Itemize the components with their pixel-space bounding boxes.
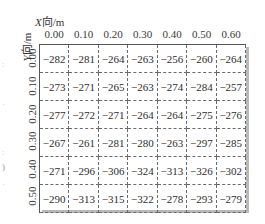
- table-cell: −296: [69, 157, 98, 185]
- table-cell: −302: [216, 157, 245, 185]
- y-tick: 0.20: [26, 100, 38, 128]
- x-tick: 0.00: [39, 28, 69, 40]
- table-cell: −261: [69, 129, 98, 157]
- x-tick: 0.50: [187, 28, 217, 40]
- table-cell: −322: [128, 185, 157, 213]
- table-row: −282 −281 −264 −263 −256 −260 −264: [40, 45, 246, 73]
- table-cell: −260: [187, 45, 216, 73]
- table-cell: −315: [98, 185, 127, 213]
- x-axis-ticks: 0.00 0.10 0.20 0.30 0.40 0.50 0.60: [39, 28, 246, 42]
- table-cell: −267: [40, 129, 69, 157]
- y-tick: 0.00: [26, 44, 38, 72]
- x-axis-title-unit: 向/m: [42, 16, 65, 28]
- table-row: −290 −313 −315 −322 −278 −293 −279: [40, 185, 246, 213]
- table-row: −271 −296 −306 −324 −313 −326 −302: [40, 157, 246, 185]
- table-cell: −275: [187, 101, 216, 129]
- table-cell: −293: [187, 185, 216, 213]
- table-cell: −284: [187, 73, 216, 101]
- table-cell: −256: [157, 45, 186, 73]
- table-cell: −271: [69, 73, 98, 101]
- y-tick: 0.30: [26, 127, 38, 155]
- table-cell: −277: [40, 101, 69, 129]
- table-cell: −265: [98, 73, 127, 101]
- table-row: −277 −272 −271 −264 −264 −275 −276: [40, 101, 246, 129]
- table-cell: −313: [157, 157, 186, 185]
- value-table: −282 −281 −264 −263 −256 −260 −264 −273 …: [39, 44, 246, 213]
- table-cell: −274: [157, 73, 186, 101]
- table-cell: −257: [216, 73, 245, 101]
- table-cell: −263: [157, 129, 186, 157]
- x-tick: 0.30: [128, 28, 158, 40]
- scan-artifact: ): [2, 163, 8, 172]
- table-row: −267 −261 −281 −280 −263 −297 −285: [40, 129, 246, 157]
- table-cell: −324: [128, 157, 157, 185]
- table-cell: −264: [98, 45, 127, 73]
- table-cell: −285: [216, 129, 245, 157]
- table-cell: −306: [98, 157, 127, 185]
- table-cell: −271: [98, 101, 127, 129]
- y-tick: 0.50: [26, 182, 38, 210]
- scan-artifact: ·: [2, 100, 8, 109]
- table-cell: −281: [98, 129, 127, 157]
- table-cell: −290: [40, 185, 69, 213]
- table-cell: −279: [216, 185, 245, 213]
- x-tick: 0.40: [157, 28, 187, 40]
- table-cell: −297: [187, 129, 216, 157]
- scan-artifact: ·: [2, 180, 8, 189]
- table-cell: −282: [40, 45, 69, 73]
- table-cell: −280: [128, 129, 157, 157]
- x-tick: 0.10: [69, 28, 99, 40]
- table-cell: −263: [128, 73, 157, 101]
- x-tick: 0.60: [216, 28, 246, 40]
- table-cell: −326: [187, 157, 216, 185]
- table-cell: −278: [157, 185, 186, 213]
- y-tick: 0.10: [26, 72, 38, 100]
- x-tick: 0.20: [98, 28, 128, 40]
- table-cell: −264: [157, 101, 186, 129]
- table-cell: −273: [40, 73, 69, 101]
- x-axis-title-var: X: [35, 16, 42, 28]
- scan-artifact: :: [2, 148, 8, 157]
- table-cell: −264: [216, 45, 245, 73]
- table-cell: −263: [128, 45, 157, 73]
- x-axis-title: X向/m: [35, 13, 64, 29]
- y-tick: 0.40: [26, 155, 38, 183]
- scan-artifact: :: [2, 60, 8, 69]
- table-cell: −272: [69, 101, 98, 129]
- table-cell: −313: [69, 185, 98, 213]
- table-cell: −281: [69, 45, 98, 73]
- data-grid: −282 −281 −264 −263 −256 −260 −264 −273 …: [39, 44, 246, 210]
- table-row: −273 −271 −265 −263 −274 −284 −257: [40, 73, 246, 101]
- table-cell: −271: [40, 157, 69, 185]
- table-cell: −264: [128, 101, 157, 129]
- table-cell: −276: [216, 101, 245, 129]
